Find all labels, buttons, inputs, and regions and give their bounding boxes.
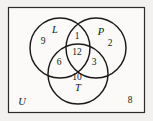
count-L-and-P-only: 1 xyxy=(75,31,80,41)
count-L-and-T-only: 6 xyxy=(57,57,62,67)
count-outside-all: 8 xyxy=(128,95,133,105)
count-P-only: 2 xyxy=(108,38,113,48)
count-T-only: 10 xyxy=(72,72,82,82)
venn-diagram-canvas: L P T 9 2 10 1 6 3 12 8 U xyxy=(0,0,153,121)
venn-diagram-figure: L P T 9 2 10 1 6 3 12 8 U xyxy=(0,0,153,121)
set-label-L: L xyxy=(51,24,58,35)
count-all-three: 12 xyxy=(72,47,82,57)
count-P-and-T-only: 3 xyxy=(92,57,97,67)
count-L-only: 9 xyxy=(41,36,46,46)
set-label-P: P xyxy=(97,26,105,37)
